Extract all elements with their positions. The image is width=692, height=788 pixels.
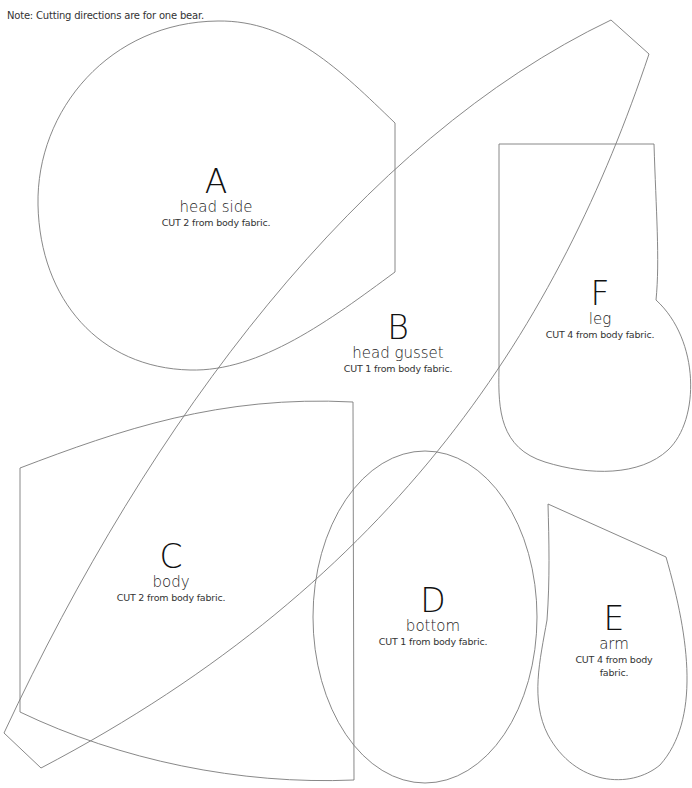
piece-e-cut: CUT 4 from body fabric. [574,653,654,679]
piece-a-letter: A [162,165,271,199]
piece-f-name: leg [546,311,655,328]
piece-a-cut: CUT 2 from body fabric. [162,216,271,229]
piece-d-letter: D [379,584,488,618]
piece-c-cut: CUT 2 from body fabric. [117,591,226,604]
piece-b-letter: B [344,311,453,345]
piece-b-label: B head gusset CUT 1 from body fabric. [344,311,453,375]
piece-d-name: bottom [379,618,488,635]
piece-c-label: C body CUT 2 from body fabric. [117,540,226,604]
piece-b-cut: CUT 1 from body fabric. [344,362,453,375]
piece-f-letter: F [546,277,655,311]
piece-e-letter: E [574,602,654,636]
piece-d-cut: CUT 1 from body fabric. [379,635,488,648]
piece-d-label: D bottom CUT 1 from body fabric. [379,584,488,648]
piece-f-label: F leg CUT 4 from body fabric. [546,277,655,341]
piece-c-letter: C [117,540,226,574]
piece-f-cut: CUT 4 from body fabric. [546,328,655,341]
piece-c-name: body [117,574,226,591]
piece-b-outline [4,20,649,768]
piece-e-label: E arm CUT 4 from body fabric. [574,602,654,679]
piece-a-label: A head side CUT 2 from body fabric. [162,165,271,229]
piece-a-name: head side [162,199,271,216]
piece-e-name: arm [574,636,654,653]
piece-b-name: head gusset [344,345,453,362]
